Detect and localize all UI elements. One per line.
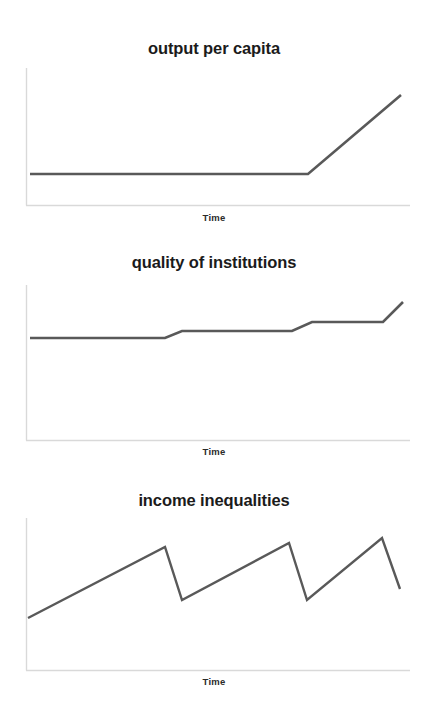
chart-svg-quality-of-institutions: [0, 236, 428, 446]
chart-svg-output-per-capita: [0, 0, 428, 212]
panel-output-per-capita: output per capita Time: [0, 0, 428, 236]
data-line-income-inequalities: [28, 538, 400, 618]
data-line-quality-of-institutions: [30, 302, 403, 338]
x-axis-label-time: Time: [0, 446, 428, 457]
plot-area-output-per-capita: [0, 0, 428, 212]
data-line-output-per-capita: [30, 95, 401, 174]
chart-svg-income-inequalities: [0, 468, 428, 676]
panel-quality-of-institutions: quality of institutions Time: [0, 236, 428, 468]
x-axis-label-time: Time: [0, 212, 428, 223]
plot-area-quality-of-institutions: [0, 236, 428, 446]
panel-income-inequalities: income inequalities Time: [0, 468, 428, 703]
plot-area-income-inequalities: [0, 468, 428, 676]
x-axis-label-time: Time: [0, 676, 428, 687]
